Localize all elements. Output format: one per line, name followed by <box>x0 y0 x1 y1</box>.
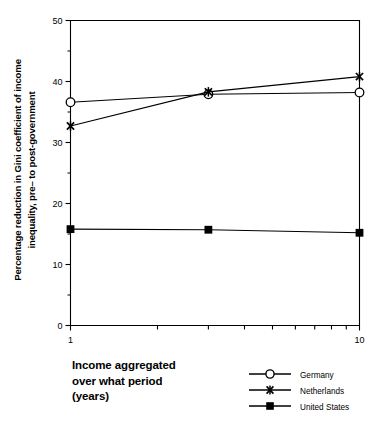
y-tick-label: 20 <box>52 199 62 209</box>
y-axis-ticks <box>66 21 71 326</box>
legend-marker-x-cross-icon <box>248 382 292 398</box>
chart-figure: Percentage reduction in Gini coefficient… <box>0 0 377 430</box>
legend-label-netherlands: Netherlands <box>300 384 344 400</box>
series-netherlands <box>67 72 363 131</box>
data-point-filled-square-icon <box>67 225 75 233</box>
x-tick-label: 1 <box>68 335 73 345</box>
x-axis-title-line-3: (years) <box>72 389 176 405</box>
series-united-states <box>67 225 364 236</box>
legend-label-germany: Germany <box>300 368 334 384</box>
y-tick-label: 0 <box>57 321 62 331</box>
y-tick-label: 40 <box>52 77 62 87</box>
y-tick-label: 10 <box>52 260 62 270</box>
x-axis-tick-labels: 110 <box>68 335 365 345</box>
data-point-x-cross-icon <box>67 121 74 131</box>
x-axis-title-line-2: over what period <box>72 374 176 390</box>
x-axis-ticks <box>71 326 360 331</box>
legend-marker-open-circle-icon <box>248 366 292 382</box>
data-series-layer <box>66 72 364 237</box>
plot-frame <box>71 21 360 326</box>
x-tick-label: 10 <box>354 335 364 345</box>
x-axis-title-line-1: Income aggregated <box>72 358 176 374</box>
legend-label-united-states: United States <box>300 400 349 416</box>
x-axis-title: Income aggregated over what period (year… <box>72 358 176 405</box>
legend-marker-filled-square-icon <box>248 398 292 414</box>
y-axis-tick-labels: 01020304050 <box>52 16 62 331</box>
line-chart-plot: 01020304050 110 <box>0 0 377 430</box>
data-point-filled-square-icon <box>356 229 364 237</box>
y-tick-label: 30 <box>52 138 62 148</box>
data-point-open-circle-icon <box>355 88 364 97</box>
data-point-open-circle-icon <box>66 98 75 107</box>
data-point-filled-square-icon <box>204 226 212 234</box>
y-tick-label: 50 <box>52 16 62 26</box>
